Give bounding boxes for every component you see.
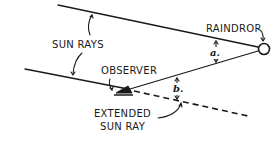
angle-b-label: b.: [173, 83, 183, 94]
sun-rays-pointer-upper: [88, 15, 92, 35]
angle-a-label: a.: [210, 47, 220, 58]
rainbow-angle-diagram: a. b. SUN RAYS RAINDROP OBSERVER EXTENDE…: [0, 0, 277, 141]
extended-sun-ray-label-line2: SUN RAY: [100, 121, 146, 132]
sun-rays-label: SUN RAYS: [52, 39, 104, 50]
observer-label: OBSERVER: [101, 65, 157, 76]
extended-sun-ray-label-line1: EXTENDED: [94, 108, 151, 119]
raindrop-icon: [259, 44, 270, 55]
extended-ray-pointer: [158, 104, 181, 118]
extended-sun-ray: [134, 91, 248, 116]
raindrop-label: RAINDROP: [206, 23, 261, 34]
sun-rays-pointer-lower: [73, 53, 82, 74]
